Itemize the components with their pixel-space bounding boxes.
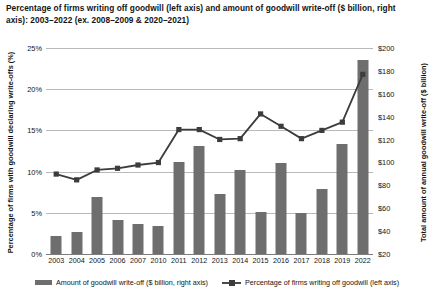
y-axis-left-tick-label: 5% xyxy=(31,213,46,222)
chart-legend: Amount of goodwill write-off ($ billion,… xyxy=(0,278,434,287)
x-axis-tick-label: 2006 xyxy=(110,256,126,265)
x-axis-labels: 2003200420052006200720102011201220132014… xyxy=(46,256,373,268)
y-axis-left-tick-label: 0% xyxy=(31,254,46,263)
line-series: 2003: 9.7%2004: 9%2005: 10.2%2006: 10.4%… xyxy=(46,48,373,254)
plot-area: 0%5%10%15%20%25% $20$40$60$80$100$120$14… xyxy=(46,48,373,254)
legend-bar-label: Amount of goodwill write-off ($ billion,… xyxy=(56,278,208,287)
x-axis-tick-label: 2004 xyxy=(69,256,85,265)
x-axis-tick-label: 2003 xyxy=(48,256,64,265)
x-axis-tick-label: 2018 xyxy=(314,256,330,265)
x-axis-tick-label: 2015 xyxy=(253,256,269,265)
line-marker: 2007: 10.8% xyxy=(135,162,140,167)
legend-item-bar: Amount of goodwill write-off ($ billion,… xyxy=(35,278,208,287)
y-axis-left-tick-label: 20% xyxy=(27,89,46,98)
x-axis-tick-label: 2005 xyxy=(89,256,105,265)
legend-line-marker-icon xyxy=(222,279,241,286)
x-axis-tick-label: 2017 xyxy=(293,256,309,265)
y-axis-left-tick-label: 10% xyxy=(27,172,46,181)
y-axis-right-tick-label: $180 xyxy=(373,71,394,80)
line-marker: 2012: 15.1% xyxy=(197,127,202,132)
line-marker: 2016: 15.5% xyxy=(278,124,283,129)
x-axis-tick-label: 2014 xyxy=(232,256,248,265)
line-marker: 2003: 9.7% xyxy=(54,171,59,176)
y-axis-left-title: Percentage of firms with goodwill declar… xyxy=(6,45,15,260)
legend-line-label: Percentage of firms writing off goodwill… xyxy=(245,278,399,287)
line-marker: 2018: 15% xyxy=(319,128,324,133)
y-axis-right-title: Total amount of annual goodwill write-of… xyxy=(419,45,428,260)
line-marker: 2015: 17% xyxy=(258,111,263,116)
y-axis-left-tick-label: 25% xyxy=(27,48,46,57)
line-marker: 2017: 14% xyxy=(299,136,304,141)
line-marker: 2022: 21.8% xyxy=(360,72,365,77)
line-marker: 2010: 11.1% xyxy=(156,160,161,165)
x-axis-tick-label: 2019 xyxy=(334,256,350,265)
chart-figure: Percentage of firms writing off goodwill… xyxy=(0,0,434,300)
line-marker: 2011: 15.1% xyxy=(176,127,181,132)
x-axis-tick-label: 2022 xyxy=(355,256,371,265)
line-marker: 2019: 16% xyxy=(340,120,345,125)
x-axis-tick-label: 2007 xyxy=(130,256,146,265)
y-axis-right-tick-label: $60 xyxy=(373,208,390,217)
gridline xyxy=(46,254,373,255)
x-axis-tick-label: 2011 xyxy=(171,256,186,265)
y-axis-right-tick-label: $100 xyxy=(373,162,394,171)
y-axis-right-tick-label: $20 xyxy=(373,254,390,263)
line-marker: 2013: 13.9% xyxy=(217,137,222,142)
line-marker: 2005: 10.2% xyxy=(94,167,99,172)
line-marker: 2006: 10.4% xyxy=(115,166,120,171)
legend-bar-swatch-icon xyxy=(35,280,52,285)
y-axis-right-tick-label: $40 xyxy=(373,231,390,240)
y-axis-left-tick-label: 15% xyxy=(27,130,46,139)
legend-item-line: Percentage of firms writing off goodwill… xyxy=(222,278,399,287)
x-axis-tick-label: 2012 xyxy=(191,256,207,265)
line-marker: 2004: 9% xyxy=(74,177,79,182)
y-axis-right-tick-label: $200 xyxy=(373,48,394,57)
x-axis-tick-label: 2016 xyxy=(273,256,289,265)
line-path xyxy=(56,74,363,179)
line-marker: 2014: 14% xyxy=(238,136,243,141)
y-axis-right-tick-label: $80 xyxy=(373,185,390,194)
y-axis-right-tick-label: $140 xyxy=(373,117,394,126)
y-axis-right-tick-label: $160 xyxy=(373,94,394,103)
x-axis-tick-label: 2010 xyxy=(150,256,166,265)
chart-title: Percentage of firms writing off goodwill… xyxy=(6,3,406,26)
y-axis-right-tick-label: $120 xyxy=(373,140,394,149)
x-axis-tick-label: 2013 xyxy=(212,256,228,265)
